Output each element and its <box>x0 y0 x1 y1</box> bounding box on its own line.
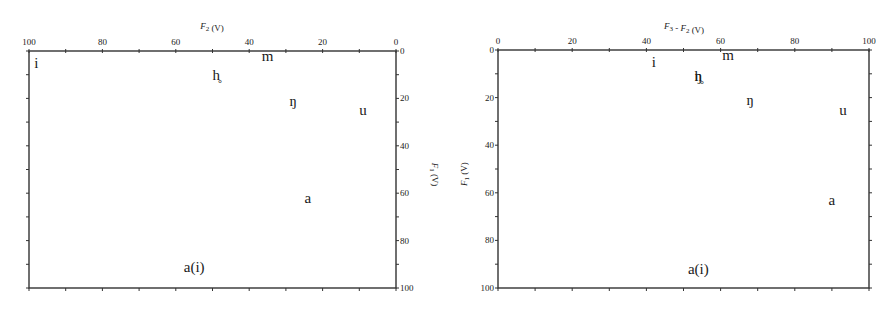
phoneme-label: ŋ <box>695 68 702 84</box>
y-tick-label: 60 <box>400 188 410 198</box>
y-tick-label: 60 <box>485 188 495 198</box>
phoneme-label: a(i) <box>688 261 709 278</box>
x-tick-label: 60 <box>716 36 726 46</box>
plot-frame <box>29 51 396 288</box>
y-tick-label: 0 <box>490 45 495 55</box>
chart-canvas: 100806040200020406080100F2 (V)F1 (V)imh̥… <box>0 0 895 312</box>
phoneme-label: u <box>839 102 847 118</box>
y-tick-label: 100 <box>400 283 414 293</box>
x-tick-label: 60 <box>171 37 181 47</box>
x-tick-label: 0 <box>496 36 501 46</box>
x-tick-label: 100 <box>862 36 876 46</box>
phoneme-label: i <box>652 54 656 70</box>
phoneme-label: i <box>34 55 38 71</box>
plot-frame <box>498 50 869 288</box>
x-tick-label: 20 <box>318 37 328 47</box>
phoneme-label: a(i) <box>184 259 205 276</box>
x-tick-label: 100 <box>22 37 36 47</box>
x-tick-label: 80 <box>98 37 108 47</box>
x-tick-label: 20 <box>568 36 578 46</box>
phoneme-label: m <box>722 47 734 63</box>
y-axis-title: F1 (V) <box>428 162 440 187</box>
phoneme-label: h̥ <box>212 67 222 83</box>
y-tick-label: 40 <box>485 140 495 150</box>
phoneme-label: a <box>829 192 836 208</box>
phoneme-label: u <box>359 102 367 118</box>
phoneme-label: ŋ <box>747 92 754 108</box>
y-tick-label: 20 <box>485 93 495 103</box>
x-tick-label: 40 <box>245 37 255 47</box>
phoneme-label: ŋ <box>290 93 297 109</box>
plot-f3f2-vs-f1: 020406080100020406080100F3 - F2 (V)F1 (V… <box>459 21 876 293</box>
y-axis-title: F1 (V) <box>459 162 471 187</box>
phoneme-label: m <box>262 48 274 64</box>
plot-f2-vs-f1: 100806040200020406080100F2 (V)F1 (V)imh̥… <box>22 21 440 293</box>
y-tick-label: 80 <box>400 236 410 246</box>
x-tick-label: 40 <box>642 36 652 46</box>
y-tick-label: 40 <box>400 141 410 151</box>
x-tick-label: 0 <box>394 37 399 47</box>
y-tick-label: 20 <box>400 93 410 103</box>
x-tick-label: 80 <box>790 36 800 46</box>
y-tick-label: 100 <box>481 283 495 293</box>
y-tick-label: 0 <box>400 46 405 56</box>
x-axis-title: F2 (V) <box>199 21 224 33</box>
phoneme-label: a <box>305 190 312 206</box>
x-axis-title: F3 - F2 (V) <box>663 21 704 35</box>
y-tick-label: 80 <box>485 235 495 245</box>
